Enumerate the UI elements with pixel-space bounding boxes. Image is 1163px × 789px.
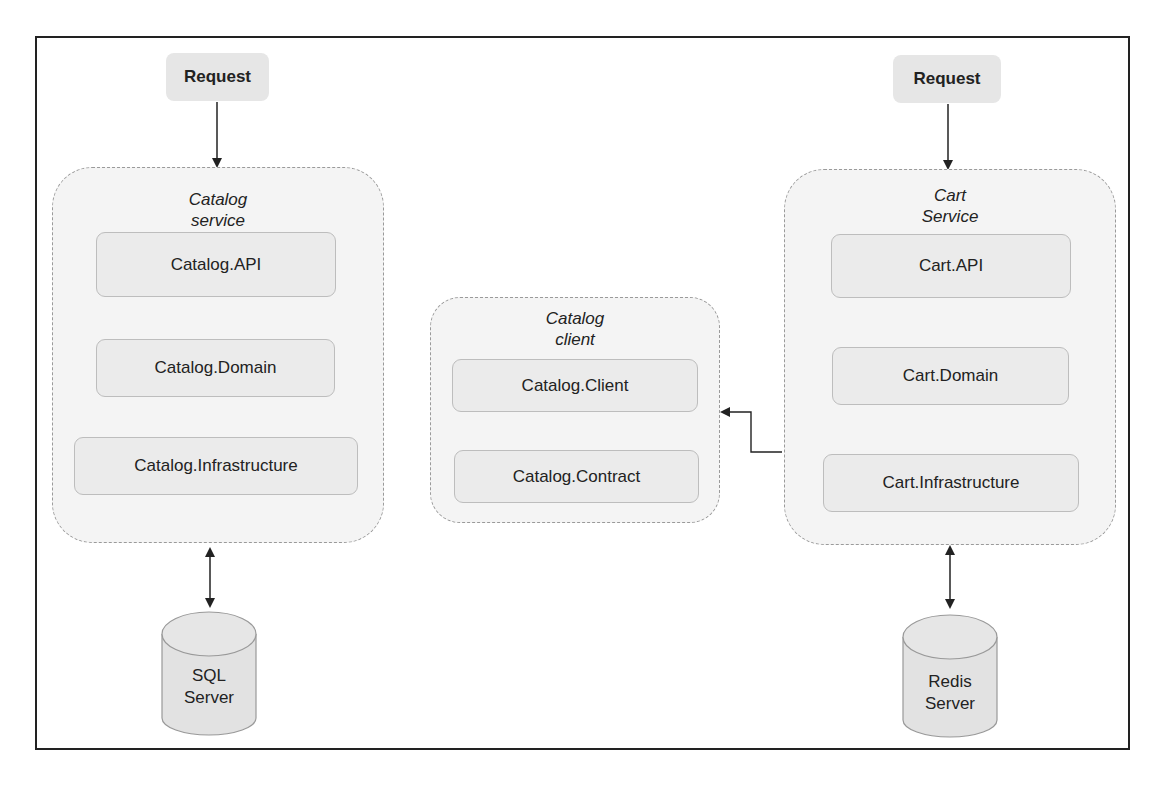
component-label: Catalog.Contract bbox=[513, 467, 641, 487]
group-title-line2: Service bbox=[785, 206, 1115, 227]
component-label: Cart.Domain bbox=[903, 366, 998, 386]
group-title-line2: service bbox=[53, 210, 383, 231]
sql-server-label: SQL Server bbox=[162, 665, 256, 709]
cart-to-catalog-client-arrow bbox=[722, 412, 782, 452]
redis-server-label: Redis Server bbox=[903, 671, 997, 715]
group-title-line1: Catalog bbox=[431, 308, 719, 329]
component-catalog-client: Catalog.Client bbox=[452, 359, 698, 412]
group-title-line1: Catalog bbox=[53, 189, 383, 210]
component-catalog-domain: Catalog.Domain bbox=[96, 339, 335, 397]
request-box-right: Request bbox=[893, 55, 1001, 103]
component-label: Catalog.Infrastructure bbox=[134, 456, 297, 476]
component-label: Cart.Infrastructure bbox=[883, 473, 1020, 493]
component-label: Catalog.Domain bbox=[155, 358, 277, 378]
group-title-line2: client bbox=[431, 329, 719, 350]
component-catalog-contract: Catalog.Contract bbox=[454, 450, 699, 503]
component-label: Catalog.Client bbox=[522, 376, 629, 396]
request-label: Request bbox=[184, 67, 251, 87]
request-label: Request bbox=[913, 69, 980, 89]
request-box-left: Request bbox=[166, 53, 269, 101]
component-cart-domain: Cart.Domain bbox=[832, 347, 1069, 405]
component-cart-api: Cart.API bbox=[831, 234, 1071, 298]
component-catalog-infrastructure: Catalog.Infrastructure bbox=[74, 437, 358, 495]
component-cart-infrastructure: Cart.Infrastructure bbox=[823, 454, 1079, 512]
component-catalog-api: Catalog.API bbox=[96, 232, 336, 297]
group-title-line1: Cart bbox=[785, 185, 1115, 206]
component-label: Cart.API bbox=[919, 256, 983, 276]
component-label: Catalog.API bbox=[171, 255, 262, 275]
